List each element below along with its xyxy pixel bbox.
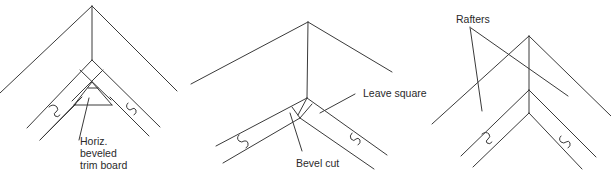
panel-middle — [191, 22, 392, 169]
label-leave-square: Leave square — [363, 87, 427, 99]
label-bevel-cut: Bevel cut — [296, 157, 339, 169]
label-horiz-beveled-trim-board: Horiz. beveled trim board — [80, 135, 127, 171]
label-line: Horiz. — [80, 135, 127, 147]
label-line: beveled — [80, 147, 127, 159]
panel-right — [432, 27, 611, 169]
label-line: trim board — [80, 159, 127, 171]
panel-left — [0, 6, 177, 140]
diagram-canvas: Horiz. beveled trim board Leave square B… — [0, 0, 611, 171]
label-rafters: Rafters — [456, 13, 490, 25]
